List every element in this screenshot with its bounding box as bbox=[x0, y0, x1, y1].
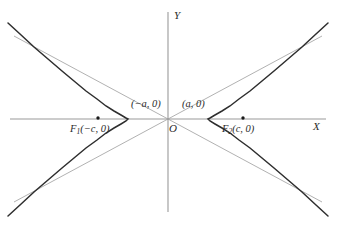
focus-left-label: F1(−c, 0) bbox=[70, 124, 109, 135]
vertex-left-label: (−a, 0) bbox=[131, 99, 161, 110]
origin-label: O bbox=[169, 123, 177, 134]
focus-left-coordinates: (−c, 0) bbox=[80, 123, 109, 134]
vertex-right-label: (a, 0) bbox=[182, 99, 205, 110]
y-axis-label: Y bbox=[174, 10, 180, 21]
focus-right-point bbox=[241, 116, 244, 119]
hyperbola-plot-canvas bbox=[0, 0, 340, 225]
focus-right-label: F2(c, 0) bbox=[222, 124, 254, 135]
focus-left-point bbox=[96, 116, 99, 119]
focus-right-coordinates: (c, 0) bbox=[232, 123, 254, 134]
axis-group bbox=[10, 12, 326, 212]
x-axis-label: X bbox=[313, 121, 320, 132]
hyperbola-figure: Y X O (−a, 0) (a, 0) F1(−c, 0) F2(c, 0) bbox=[0, 0, 340, 225]
